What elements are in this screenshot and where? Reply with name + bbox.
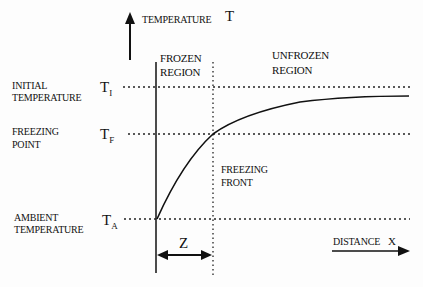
frozen-region-label-2: REGION bbox=[160, 66, 200, 78]
arrowhead-icon bbox=[398, 246, 410, 256]
unfrozen-region-label-1: UNFROZEN bbox=[272, 49, 329, 61]
ambient-temperature-label-2: TEMPERATURE bbox=[14, 224, 83, 236]
freezing-front-label-1: FREEZING bbox=[221, 164, 268, 176]
x-axis-label: DISTANCE bbox=[333, 236, 380, 248]
frozen-region-label-1: FROZEN bbox=[160, 52, 202, 64]
initial-temperature-label-1: INITIAL bbox=[12, 80, 47, 92]
freezing-point-symbol: TF bbox=[100, 127, 114, 144]
initial-temperature-symbol: TI bbox=[100, 80, 112, 97]
initial-temperature-label-2: TEMPERATURE bbox=[12, 92, 81, 104]
ambient-temperature-symbol: TA bbox=[102, 213, 118, 230]
arrowhead-right-icon bbox=[201, 250, 212, 260]
freezing-point-label-1: FREEZING bbox=[12, 126, 59, 138]
y-axis-label: TEMPERATURE bbox=[142, 14, 211, 26]
y-axis-symbol: T bbox=[225, 9, 234, 24]
depth-symbol: Z bbox=[179, 236, 188, 251]
freezing-front-label-2: FRONT bbox=[221, 177, 253, 189]
temperature-profile-curve bbox=[157, 96, 409, 219]
freezing-front-diagram: TEMPERATURE T FROZEN REGION UNFROZEN REG… bbox=[0, 0, 423, 287]
x-axis-symbol: X bbox=[388, 235, 396, 247]
arrowhead-icon bbox=[125, 12, 135, 24]
ambient-temperature-label-1: AMBIENT bbox=[14, 212, 58, 224]
arrowhead-left-icon bbox=[157, 250, 168, 260]
unfrozen-region-label-2: REGION bbox=[272, 64, 312, 76]
freezing-point-label-2: POINT bbox=[12, 139, 40, 151]
